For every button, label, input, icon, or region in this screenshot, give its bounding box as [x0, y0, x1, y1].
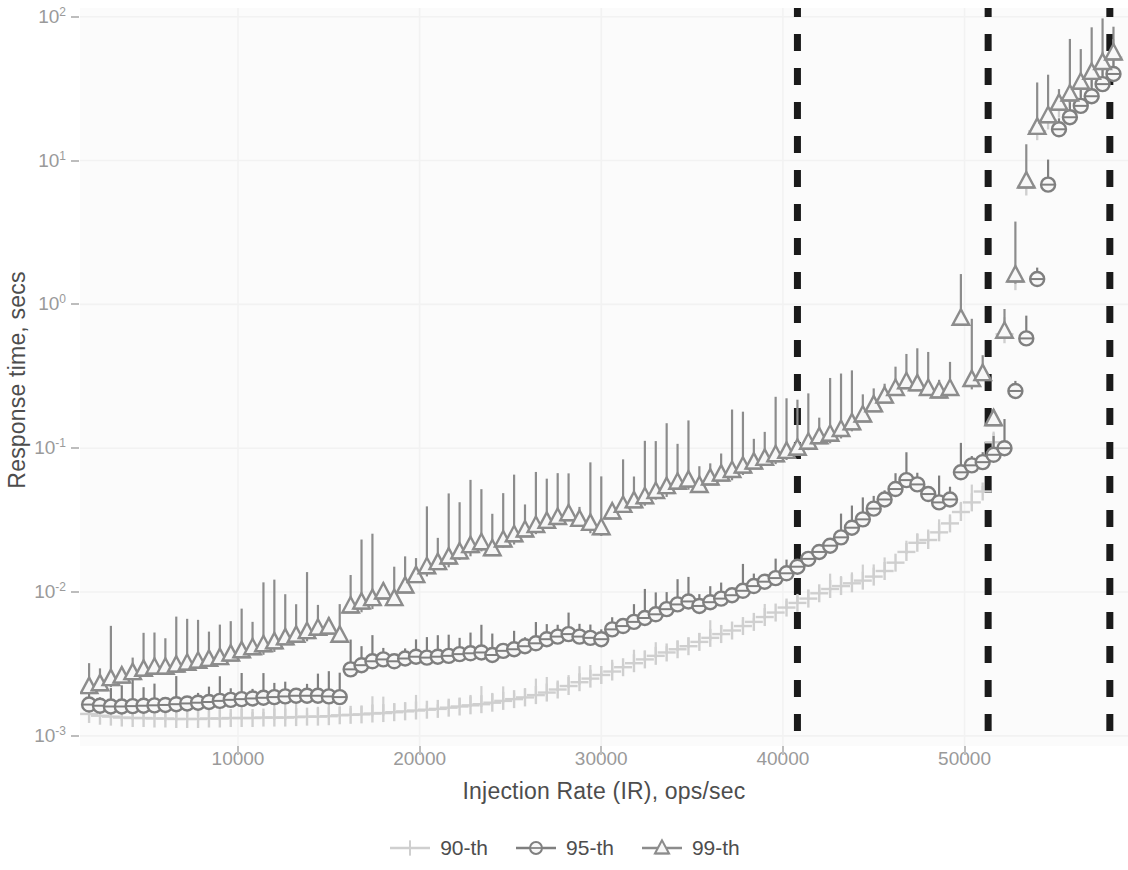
- plot-panel: [80, 8, 1128, 746]
- legend-label: 95-th: [566, 836, 614, 860]
- legend-key-marker: [530, 842, 542, 854]
- y-tick-label: 10-1: [0, 437, 66, 459]
- legend-key-circle-icon: [514, 836, 558, 860]
- legend-label: 99-th: [692, 836, 740, 860]
- y-tick-mark: [71, 735, 79, 737]
- legend-item-95-th[interactable]: 95-th: [514, 836, 614, 860]
- chart-legend: 90-th95-th99-th: [0, 828, 1128, 868]
- y-tick-label: 100: [0, 293, 66, 315]
- y-axis-title: Response time, secs: [0, 0, 34, 760]
- chart-figure: Response time, secs Injection Rate (IR),…: [0, 0, 1128, 870]
- x-tick-mark: [964, 746, 966, 755]
- y-tick-label: 101: [0, 150, 66, 172]
- x-tick-mark: [600, 746, 602, 755]
- x-tick-mark: [419, 746, 421, 755]
- x-axis-title: Injection Rate (IR), ops/sec: [80, 778, 1128, 805]
- legend-key-triangle-icon: [640, 836, 684, 860]
- plot-canvas: [80, 8, 1128, 746]
- y-tick-mark: [71, 447, 79, 449]
- y-tick-label: 102: [0, 6, 66, 28]
- y-tick-mark: [71, 160, 79, 162]
- x-tick-mark: [782, 746, 784, 755]
- y-tick-mark: [71, 303, 79, 305]
- y-tick-mark: [71, 16, 79, 18]
- legend-item-90-th[interactable]: 90-th: [388, 836, 488, 860]
- legend-key-marker: [403, 840, 418, 855]
- legend-label: 90-th: [440, 836, 488, 860]
- x-tick-mark: [237, 746, 239, 755]
- legend-item-99-th[interactable]: 99-th: [640, 836, 740, 860]
- legend-key-plus-icon: [388, 836, 432, 860]
- y-tick-label: 10-2: [0, 581, 66, 603]
- y-tick-label: 10-3: [0, 725, 66, 747]
- y-tick-mark: [71, 591, 79, 593]
